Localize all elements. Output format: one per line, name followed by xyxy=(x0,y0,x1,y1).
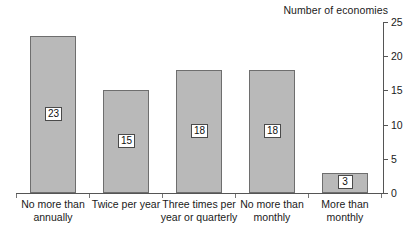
y-axis-label-25: 25 xyxy=(391,17,403,27)
chart-title: Number of economies xyxy=(283,4,388,16)
bar-value-no-more-than-annually: 23 xyxy=(45,107,62,121)
bar-value-more-than-monthly: 3 xyxy=(338,175,353,189)
y-axis-tick-20 xyxy=(383,56,388,57)
bar-value-no-more-than-monthly: 18 xyxy=(264,124,281,138)
category-label-line-2: monthly xyxy=(300,211,390,224)
y-axis-tick-10 xyxy=(383,125,388,126)
y-axis-label-5: 5 xyxy=(391,154,397,164)
y-axis-line xyxy=(383,22,384,194)
y-axis-label-20: 20 xyxy=(391,51,403,61)
y-axis-tick-0 xyxy=(383,193,388,194)
category-label-line-2: annually xyxy=(8,211,98,224)
category-label-line-1: More than xyxy=(300,198,390,211)
y-axis-label-15: 15 xyxy=(391,85,403,95)
y-axis-tick-25 xyxy=(383,22,388,23)
category-label-more-than-monthly: More than monthly xyxy=(300,198,390,223)
y-axis-tick-15 xyxy=(383,90,388,91)
bar-value-twice-per-year: 15 xyxy=(118,134,135,148)
y-axis-tick-5 xyxy=(383,159,388,160)
bar-value-three-times-per-year-or-quarterly: 18 xyxy=(191,124,208,138)
y-axis-label-10: 10 xyxy=(391,120,403,130)
y-axis-label-0: 0 xyxy=(391,188,397,198)
x-axis-line xyxy=(16,193,383,194)
bar-chart: Number of economies 0 5 10 15 20 25 23 1… xyxy=(0,0,420,238)
